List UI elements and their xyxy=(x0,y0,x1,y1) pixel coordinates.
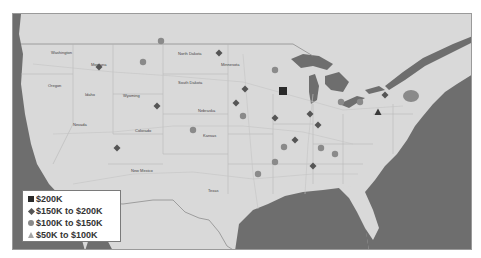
legend-item-100k-150k: $100K to $150K xyxy=(27,217,116,229)
circle-marker-icon[interactable] xyxy=(255,171,261,177)
circle-marker-icon[interactable] xyxy=(158,38,164,44)
state-label: Wyoming xyxy=(123,93,140,98)
diamond-marker-icon[interactable] xyxy=(382,92,389,99)
diamond-marker-icon[interactable] xyxy=(114,145,121,152)
diamond-marker-icon[interactable] xyxy=(315,122,322,129)
circle-marker-icon[interactable] xyxy=(240,113,246,119)
lake-champlain-area xyxy=(403,90,419,102)
diamond-marker-icon[interactable] xyxy=(216,50,223,57)
triangle-marker-icon[interactable] xyxy=(375,109,382,116)
legend: $200K $150K to $200K $100K to $150K $50K… xyxy=(22,190,121,242)
state-label: New Mexico xyxy=(131,168,154,173)
state-label: Oregon xyxy=(48,83,61,88)
circle-marker-icon[interactable] xyxy=(281,144,287,150)
square-marker-icon xyxy=(28,196,34,202)
circle-marker-icon[interactable] xyxy=(318,145,324,151)
state-label: North Dakota xyxy=(178,51,202,56)
markers xyxy=(96,38,389,177)
diamond-marker-icon[interactable] xyxy=(233,100,240,107)
circle-marker-icon[interactable] xyxy=(190,127,196,133)
state-labels: WashingtonMontanaNorth DakotaSouth Dakot… xyxy=(48,50,240,193)
circle-marker-icon[interactable] xyxy=(272,67,278,73)
diamond-marker-icon[interactable] xyxy=(292,137,299,144)
circle-marker-icon[interactable] xyxy=(338,99,344,105)
circle-marker-icon[interactable] xyxy=(332,151,338,157)
legend-label: $150K to $200K xyxy=(36,205,103,217)
circle-marker-icon[interactable] xyxy=(357,99,363,105)
state-label: Nevada xyxy=(73,122,88,127)
legend-item-150k-200k: $150K to $200K xyxy=(27,205,116,217)
roads xyxy=(33,54,403,209)
state-label: Nebraska xyxy=(198,108,216,113)
circle-marker-icon[interactable] xyxy=(140,59,146,65)
legend-item-200k: $200K xyxy=(27,193,116,205)
lake-michigan xyxy=(309,74,319,104)
diamond-marker-icon[interactable] xyxy=(272,115,279,122)
lake-superior xyxy=(291,54,333,70)
lake-ontario xyxy=(365,86,385,94)
legend-label: $50K to $100K xyxy=(36,229,98,241)
st-lawrence xyxy=(385,36,472,90)
legend-item-50k-100k: $50K to $100K xyxy=(27,229,116,241)
state-label: Washington xyxy=(51,50,72,55)
state-label: Idaho xyxy=(85,92,96,97)
square-marker-icon[interactable] xyxy=(279,87,287,95)
triangle-marker-icon xyxy=(28,232,34,238)
state-borders xyxy=(21,44,413,194)
legend-label: $200K xyxy=(36,193,63,205)
state-label: Minnesota xyxy=(221,62,240,67)
state-label: Colorado xyxy=(135,128,152,133)
state-label: Texas xyxy=(208,188,218,193)
state-label: Kansas xyxy=(203,133,216,138)
diamond-marker-icon xyxy=(27,207,34,214)
diamond-marker-icon[interactable] xyxy=(242,86,249,93)
lake-huron xyxy=(325,72,349,92)
circle-marker-icon xyxy=(28,220,34,226)
diamond-marker-icon[interactable] xyxy=(310,163,317,170)
circle-marker-icon[interactable] xyxy=(272,159,278,165)
legend-label: $100K to $150K xyxy=(36,217,103,229)
state-label: South Dakota xyxy=(178,80,203,85)
diamond-marker-icon[interactable] xyxy=(154,103,161,110)
atlantic-ocean xyxy=(363,74,472,250)
diamond-marker-icon[interactable] xyxy=(307,111,314,118)
